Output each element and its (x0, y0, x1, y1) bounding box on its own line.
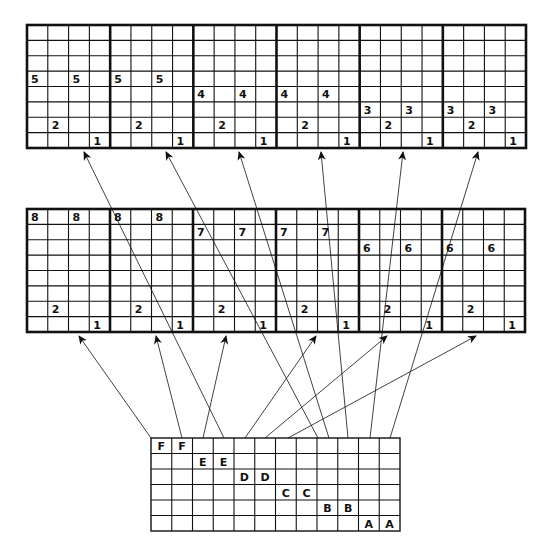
arrow-to-top-block-4 (321, 152, 348, 438)
cell-number: 2 (52, 303, 60, 316)
arrow-to-top-block-6 (390, 152, 478, 438)
cell-number: 3 (405, 104, 413, 117)
cell-number: 7 (239, 226, 247, 239)
cell-number: 2 (467, 303, 475, 316)
cell-number: 6 (446, 242, 454, 255)
cell-letter: B (323, 502, 331, 515)
cell-letter: D (261, 471, 270, 484)
arrow-to-top-block-2 (166, 152, 318, 438)
cell-number: 1 (93, 135, 101, 148)
cell-number: 1 (342, 319, 350, 332)
cell-number: 2 (301, 119, 309, 132)
grid-mapping-diagram: 552155214421442133213321 882188217721772… (0, 0, 545, 556)
cell-number: 2 (52, 119, 60, 132)
arrow-to-middle-block-2 (156, 336, 182, 438)
arrow-to-middle-block-5 (265, 336, 387, 438)
cell-number: 8 (73, 211, 81, 224)
arrow-to-middle-block-3 (203, 336, 226, 438)
cell-number: 3 (364, 104, 372, 117)
cell-number: 2 (218, 303, 226, 316)
cell-number: 2 (135, 119, 143, 132)
cell-letter: F (178, 440, 186, 453)
cell-number: 3 (488, 104, 496, 117)
cell-number: 6 (405, 242, 413, 255)
cell-letter: F (158, 440, 166, 453)
arrow-to-top-block-5 (370, 152, 403, 438)
cell-number: 4 (197, 88, 205, 101)
cell-number: 2 (301, 303, 309, 316)
middle-grid: 882188217721772166216621 (27, 209, 525, 332)
cell-number: 1 (177, 135, 185, 148)
bottom-grid: FFEEDDCCBBAA (151, 438, 400, 531)
cell-number: 4 (239, 88, 247, 101)
top-grid: 552155214421442133213321 (27, 25, 526, 148)
cell-number: 7 (280, 226, 288, 239)
cell-number: 2 (384, 119, 392, 132)
arrow-to-middle-block-1 (79, 336, 151, 438)
cell-number: 4 (281, 88, 289, 101)
cell-number: 6 (488, 242, 496, 255)
cell-number: 1 (426, 135, 434, 148)
cell-number: 8 (31, 211, 39, 224)
cell-letter: E (199, 456, 207, 469)
cell-number: 5 (31, 73, 39, 86)
cell-letter: C (303, 487, 311, 500)
arrow-to-middle-block-6 (288, 336, 476, 438)
cell-letter: B (344, 502, 352, 515)
cell-number: 8 (156, 211, 164, 224)
cell-number: 5 (114, 73, 122, 86)
cell-letter: A (365, 518, 374, 531)
cell-number: 1 (176, 319, 184, 332)
arrow-to-top-block-1 (84, 152, 224, 438)
cell-number: 2 (218, 119, 226, 132)
cell-number: 7 (322, 226, 330, 239)
cell-number: 8 (114, 211, 122, 224)
cell-number: 5 (156, 73, 164, 86)
arrow-to-middle-block-4 (245, 336, 316, 438)
cell-number: 1 (343, 135, 351, 148)
cell-number: 5 (73, 73, 81, 86)
cell-number: 4 (322, 88, 330, 101)
arrows (79, 152, 478, 438)
cell-number: 6 (363, 242, 371, 255)
cell-number: 7 (197, 226, 205, 239)
cell-letter: C (282, 487, 290, 500)
arrow-to-top-block-3 (239, 152, 329, 438)
cell-letter: A (385, 518, 394, 531)
cell-number: 1 (259, 319, 267, 332)
cell-number: 1 (93, 319, 101, 332)
cell-number: 3 (447, 104, 455, 117)
cell-number: 1 (425, 319, 433, 332)
cell-number: 1 (508, 319, 516, 332)
cell-letter: E (220, 456, 228, 469)
cell-number: 2 (135, 303, 143, 316)
cell-letter: D (240, 471, 249, 484)
cell-number: 1 (260, 135, 268, 148)
cell-number: 2 (384, 303, 392, 316)
cell-number: 2 (468, 119, 476, 132)
cell-number: 1 (509, 135, 517, 148)
